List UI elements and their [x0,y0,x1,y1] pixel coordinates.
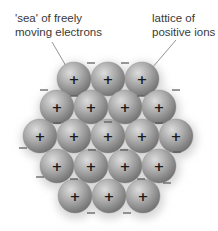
plus-sign-icon: + [104,189,115,204]
plus-sign-icon: + [70,189,81,204]
plus-sign-icon: + [52,100,63,115]
positive-ion: + [142,90,176,124]
positive-ion: + [125,119,159,153]
positive-ion: + [91,119,125,153]
plus-sign-icon: + [137,129,148,144]
plus-sign-icon: + [138,189,149,204]
positive-ion: + [74,90,108,124]
plus-sign-icon: + [154,159,165,174]
positive-ion: + [142,149,176,183]
positive-ion-lattice: +++++++++++++++++++ [23,62,193,213]
metallic-bonding-diagram: +++++++++++++++++++ [0,0,218,231]
plus-sign-icon: + [171,129,182,144]
positive-ion: + [92,179,126,213]
positive-ion: + [108,90,142,124]
plus-sign-icon: + [103,129,114,144]
positive-ion: + [23,119,57,153]
lattice-leader [152,40,176,68]
plus-sign-icon: + [52,159,63,174]
plus-sign-icon: + [103,72,114,87]
positive-ion: + [58,179,92,213]
plus-sign-icon: + [35,129,46,144]
positive-ion: + [40,149,74,183]
plus-sign-icon: + [86,159,97,174]
plus-sign-icon: + [86,100,97,115]
plus-sign-icon: + [137,72,148,87]
positive-ion: + [126,179,160,213]
plus-sign-icon: + [120,100,131,115]
positive-ion: + [40,90,74,124]
plus-sign-icon: + [69,129,80,144]
positive-ion: + [108,149,142,183]
sea-leader [52,42,66,66]
positive-ion: + [159,119,193,153]
positive-ion: + [57,119,91,153]
plus-sign-icon: + [69,72,80,87]
plus-sign-icon: + [120,159,131,174]
plus-sign-icon: + [154,100,165,115]
positive-ion: + [74,149,108,183]
